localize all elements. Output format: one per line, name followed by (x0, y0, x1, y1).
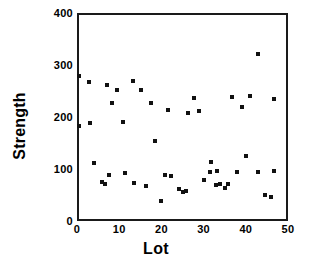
data-point (269, 195, 273, 199)
data-point (169, 174, 173, 178)
data-point (159, 199, 163, 203)
data-point (87, 80, 91, 84)
y-tick-label: 300 (54, 60, 73, 71)
data-point (131, 79, 135, 83)
data-point (123, 171, 127, 175)
data-point (230, 95, 234, 99)
y-tick-label: 0 (67, 216, 73, 227)
data-point (110, 101, 114, 105)
data-point (223, 186, 227, 190)
plot-area (77, 13, 288, 221)
x-axis-label: Lot (0, 240, 312, 258)
data-point (132, 181, 136, 185)
data-point (77, 74, 81, 78)
y-axis-label: Strength (11, 76, 29, 176)
data-point (244, 154, 248, 158)
data-point (115, 88, 119, 92)
data-point (107, 173, 111, 177)
data-point (202, 178, 206, 182)
data-point (240, 105, 244, 109)
data-point (248, 94, 252, 98)
data-point (192, 96, 196, 100)
y-tick-label: 100 (54, 164, 73, 175)
data-point (163, 173, 167, 177)
x-tick-label: 10 (113, 224, 126, 235)
data-point (226, 182, 230, 186)
data-point (77, 124, 81, 128)
data-point (256, 170, 260, 174)
data-point (105, 83, 109, 87)
data-point (88, 121, 92, 125)
data-point (153, 139, 157, 143)
data-point (144, 184, 148, 188)
data-point (209, 160, 213, 164)
data-point (263, 193, 267, 197)
data-point (208, 170, 212, 174)
data-point (197, 109, 201, 113)
x-tick-label: 0 (74, 224, 80, 235)
data-point (103, 182, 107, 186)
data-points-layer (79, 15, 286, 219)
x-tick-label: 40 (239, 224, 252, 235)
y-tick-label: 400 (54, 8, 73, 19)
data-point (215, 169, 219, 173)
data-point (92, 161, 96, 165)
x-tick-label: 20 (155, 224, 168, 235)
data-point (186, 111, 190, 115)
data-point (184, 189, 188, 193)
data-point (235, 170, 239, 174)
data-point (166, 108, 170, 112)
scatter-plot-figure: Strength Lot 0100200300400 01020304050 (0, 0, 312, 268)
data-point (272, 169, 276, 173)
x-tick-label: 30 (197, 224, 210, 235)
y-tick-label: 200 (54, 112, 73, 123)
data-point (149, 101, 153, 105)
data-point (121, 120, 125, 124)
data-point (256, 52, 260, 56)
data-point (139, 88, 143, 92)
x-tick-label: 50 (282, 224, 295, 235)
data-point (272, 97, 276, 101)
